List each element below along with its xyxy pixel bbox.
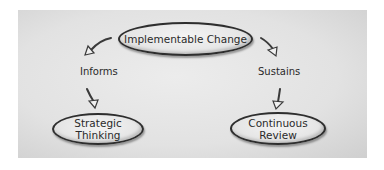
- relation-sustains: Sustains: [258, 66, 300, 77]
- node-label-line1: Continuous: [248, 117, 307, 129]
- arrow-head-icon: [268, 47, 277, 56]
- arrow-icon: [91, 38, 111, 50]
- node-label: Implementable Change: [124, 33, 247, 45]
- node-label-line2: Thinking: [74, 129, 121, 141]
- arrow-head-icon: [89, 100, 98, 108]
- node-label-line2: Review: [248, 129, 307, 141]
- node-strategic-thinking: Strategic Thinking: [52, 113, 144, 145]
- node-label-line1: Strategic: [74, 117, 121, 129]
- relation-informs: Informs: [80, 66, 118, 77]
- arrow-icon: [261, 38, 273, 49]
- node-continuous-review: Continuous Review: [230, 112, 326, 145]
- node-implementable-change: Implementable Change: [118, 22, 253, 56]
- arrow-icon: [278, 89, 280, 102]
- arrow-head-icon: [273, 101, 283, 109]
